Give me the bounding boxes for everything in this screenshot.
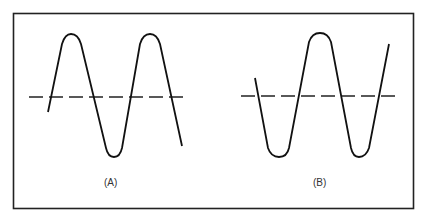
panel-label-b: (B) — [313, 177, 326, 188]
panel-label-a: (A) — [104, 177, 117, 188]
waveform-a — [48, 34, 182, 157]
figure-border — [14, 14, 414, 209]
panel-a — [29, 34, 186, 157]
waveform-b — [255, 33, 389, 157]
waveform-figure — [0, 0, 424, 216]
panel-b — [241, 33, 397, 157]
